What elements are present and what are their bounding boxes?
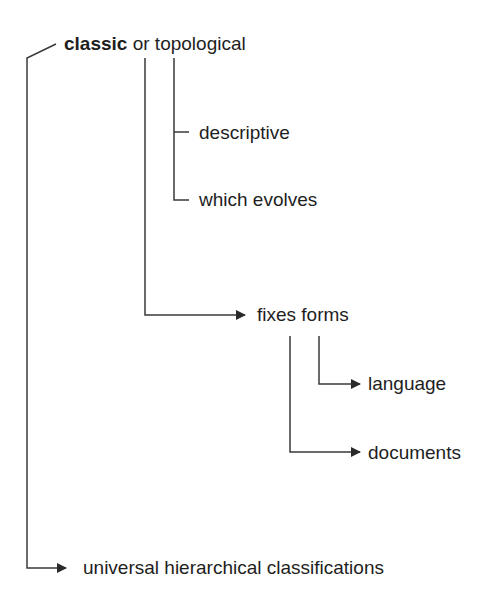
root-label: classic or topological (64, 34, 246, 53)
node-fixes-forms: fixes forms (257, 305, 349, 324)
classification-diagram: classic or topological descriptive which… (0, 0, 504, 601)
root-bold-term: classic (64, 33, 127, 54)
language-connector (319, 336, 360, 384)
root-rest: or topological (127, 33, 245, 54)
node-universal: universal hierarchical classifications (83, 558, 384, 577)
connector-lines (0, 0, 504, 601)
documents-connector (290, 336, 360, 452)
root-connector (27, 44, 66, 568)
topological-connector (174, 58, 189, 200)
node-descriptive: descriptive (199, 123, 290, 142)
node-documents: documents (368, 443, 461, 462)
node-which-evolves: which evolves (199, 190, 317, 209)
fixes-forms-connector (145, 58, 245, 315)
node-language: language (368, 374, 446, 393)
